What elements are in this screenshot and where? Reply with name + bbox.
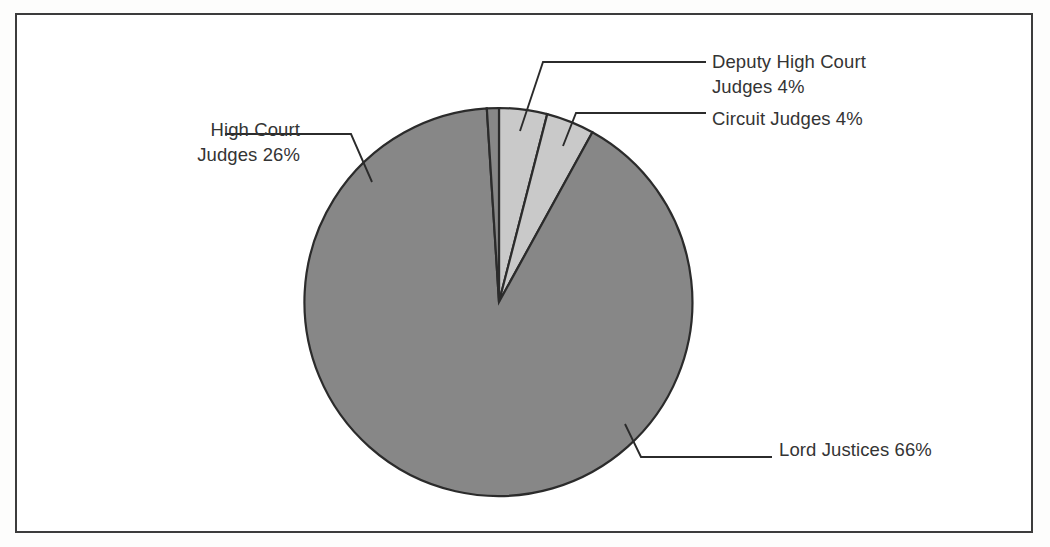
pie-chart-figure: Deputy High Court Judges 4% Circuit Judg…	[0, 0, 1050, 547]
pie-label-high-court-judges: High Court Judges 26%	[105, 117, 300, 167]
pie-chart-graphic	[0, 0, 1050, 547]
leader-line-lord-justices	[625, 424, 772, 457]
pie-label-lord-justices: Lord Justices 66%	[779, 437, 932, 462]
pie-label-deputy-high-court-judges: Deputy High Court Judges 4%	[712, 49, 866, 99]
pie-label-circuit-judges: Circuit Judges 4%	[712, 106, 863, 131]
